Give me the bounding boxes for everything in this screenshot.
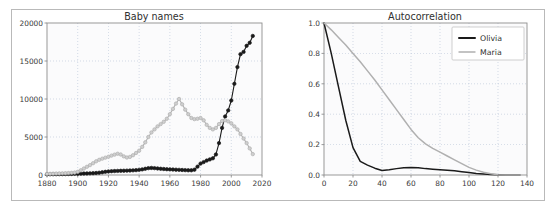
legend[interactable]: OliviaMaria [452,27,524,60]
series-marker-maria [184,108,187,111]
series-marker-maria [162,120,165,123]
xtick-label: 100 [462,179,476,188]
plot-background-left [47,23,262,175]
series-marker-maria [159,122,162,125]
series-marker-maria [245,141,248,144]
series-marker-olivia [248,41,251,44]
ytick-label: 0.6 [308,80,320,89]
ytick-label: 0.8 [308,49,320,58]
panel-autocorrelation: 020406080100120140 0.00.20.40.60.81.0 Ol… [280,10,546,202]
series-marker-maria [156,125,159,128]
series-marker-maria [174,102,177,105]
legend-label-olivia: Olivia [480,34,502,43]
series-marker-olivia [217,141,220,144]
panel-baby-names: 18801900192019401960198020002020 0500010… [12,10,280,202]
series-marker-maria [214,126,217,129]
xtick-labels-left: 18801900192019401960198020002020 [38,179,272,188]
series-marker-maria [199,116,202,119]
series-marker-olivia [211,157,214,160]
series-marker-maria [202,119,205,122]
ytick-label: 0 [38,171,43,180]
series-marker-maria [134,151,137,154]
series-marker-maria [168,113,171,116]
series-marker-maria [248,147,251,150]
series-marker-maria [177,97,180,100]
legend-label-maria: Maria [480,48,502,57]
ytick-label: 0.0 [308,171,320,180]
series-marker-olivia [196,165,199,168]
ytick-label: 20000 [19,19,43,28]
xtick-label: 1980 [191,179,210,188]
series-marker-olivia [214,153,217,156]
series-marker-maria [165,117,168,120]
series-marker-maria [217,122,220,125]
xtick-label: 20 [348,179,358,188]
series-marker-maria [131,154,134,157]
xtick-labels-right: 020406080100120140 [322,179,535,188]
ytick-labels-left: 05000100001500020000 [19,19,43,180]
xtick-label: 0 [322,179,327,188]
xtick-label: 60 [406,179,416,188]
series-marker-maria [150,131,153,134]
series-marker-maria [251,152,254,155]
ytick-label: 15000 [19,57,43,66]
xtick-label: 80 [435,179,445,188]
xtick-label: 120 [491,179,505,188]
series-marker-olivia [242,50,245,53]
xtick-label: 1960 [160,179,179,188]
figure-frame: 18801900192019401960198020002020 0500010… [11,9,545,201]
series-marker-olivia [239,52,242,55]
xtick-label: 1920 [99,179,118,188]
series-marker-olivia [220,126,223,129]
xtick-label: 1940 [130,179,149,188]
series-marker-olivia [223,115,226,118]
series-marker-maria [137,149,140,152]
series-marker-maria [230,122,233,125]
baby-names-chart: 18801900192019401960198020002020 0500010… [12,10,280,202]
series-marker-olivia [251,34,254,37]
series-marker-olivia [227,109,230,112]
figure-canvas: 18801900192019401960198020002020 0500010… [0,0,557,218]
chart-title-left: Baby names [124,11,183,22]
ytick-labels-right: 0.00.20.40.60.81.0 [308,19,320,180]
series-marker-maria [236,128,239,131]
series-marker-olivia [233,82,236,85]
series-marker-olivia [230,99,233,102]
series-marker-maria [233,125,236,128]
series-marker-maria [141,145,144,148]
xtick-label: 2000 [222,179,241,188]
ytick-label: 1.0 [308,19,320,28]
series-marker-maria [180,103,183,106]
xtick-label: 1880 [38,179,57,188]
xtick-label: 140 [520,179,534,188]
ytick-label: 0.2 [308,140,320,149]
series-marker-maria [205,123,208,126]
ytick-label: 5000 [24,133,43,142]
xtick-label: 1900 [68,179,87,188]
autocorrelation-chart: 020406080100120140 0.00.20.40.60.81.0 Ol… [280,10,546,202]
series-marker-maria [171,107,174,110]
series-marker-maria [153,128,156,131]
ytick-label: 10000 [19,95,43,104]
series-marker-maria [242,137,245,140]
series-marker-olivia [245,44,248,47]
chart-title-right: Autocorrelation [388,11,462,22]
series-marker-maria [147,135,150,138]
ytick-label: 0.4 [308,110,320,119]
series-marker-olivia [236,65,239,68]
series-marker-maria [187,113,190,116]
xtick-label: 2020 [253,179,272,188]
series-marker-olivia [193,168,196,171]
xtick-label: 40 [377,179,387,188]
series-marker-maria [144,141,147,144]
series-marker-maria [239,132,242,135]
